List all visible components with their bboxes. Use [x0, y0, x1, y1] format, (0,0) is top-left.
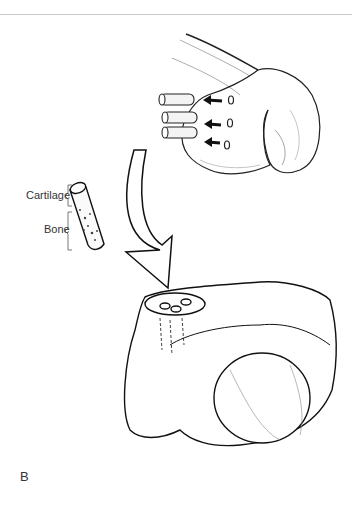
- talus: [125, 282, 337, 446]
- graft-cylinder: [69, 181, 104, 250]
- bone-label: Bone: [44, 223, 70, 235]
- panel-label: B: [20, 469, 29, 484]
- harvested-plugs: [159, 94, 197, 138]
- illustration: [0, 0, 352, 508]
- femoral-condyle: [172, 34, 320, 174]
- transfer-arrow: [126, 150, 172, 288]
- extraction-arrows: [203, 95, 222, 147]
- cartilage-label: Cartilage: [26, 189, 70, 201]
